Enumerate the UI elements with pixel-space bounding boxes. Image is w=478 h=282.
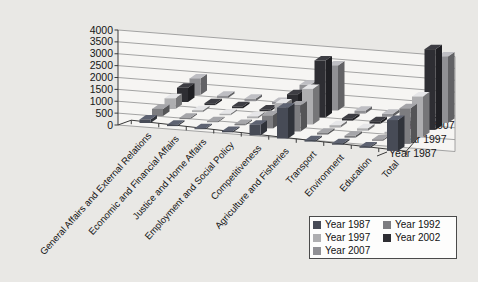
legend-swatch: [313, 247, 321, 255]
y-tick-label: 2500: [90, 59, 114, 71]
legend-swatch: [313, 221, 321, 229]
legend-swatch: [313, 234, 321, 242]
y-tick-label: 1500: [90, 83, 114, 95]
y-tick-label: 1000: [90, 95, 114, 107]
legend-label: Year 1997: [325, 232, 370, 243]
scanned-page: 05001000150020002500300035004000Year 198…: [0, 0, 478, 282]
legend-item: Year 1992: [383, 219, 453, 230]
y-tick-label: 500: [95, 107, 113, 119]
legend-item: Year 2007: [313, 245, 383, 256]
legend-label: Year 1992: [395, 219, 440, 230]
y-tick-label: 3500: [90, 35, 114, 47]
y-tick-label: 4000: [90, 24, 114, 36]
bar: [387, 116, 405, 151]
legend-label: Year 2002: [395, 232, 440, 243]
chart-legend: Year 1987Year 1992Year 1997Year 2002Year…: [309, 216, 457, 259]
legend-item: Year 1987: [313, 219, 383, 230]
legend-label: Year 1987: [325, 219, 370, 230]
y-tick-label: 0: [107, 119, 113, 131]
legend-item: Year 2002: [383, 232, 453, 243]
y-tick-label: 3000: [90, 47, 114, 59]
y-tick-label: 2000: [90, 71, 114, 83]
legend-swatch: [383, 234, 391, 242]
bar: [277, 103, 295, 138]
legend-label: Year 2007: [325, 245, 370, 256]
legend-swatch: [383, 221, 391, 229]
legend-item: Year 1997: [313, 232, 383, 243]
